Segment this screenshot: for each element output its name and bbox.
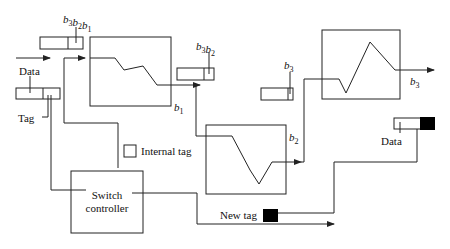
- label-output-data: Data: [381, 135, 402, 147]
- label-controller: controller: [86, 202, 129, 214]
- block-2: [206, 125, 286, 194]
- label-b2: b2: [289, 131, 299, 146]
- block-3: [322, 30, 400, 99]
- register-b3: [261, 72, 293, 100]
- register-data-tag: [16, 76, 86, 190]
- new-tag-square: [263, 209, 278, 222]
- label-b3-output: b3: [410, 75, 420, 90]
- label-input-data: Data: [19, 65, 40, 77]
- pipeline-diagram: b3b2b1 Data Tag b1 b3b2 b3 b2 b3 Interna…: [0, 0, 450, 249]
- label-b3b2b1: b3b2b1: [63, 13, 92, 34]
- block-1-waveform: [90, 58, 200, 85]
- label-b1: b1: [174, 101, 184, 116]
- label-tag: Tag: [18, 112, 35, 124]
- register-b3b2: [177, 52, 214, 80]
- label-switch: Switch: [92, 189, 123, 201]
- label-b3-register: b3: [284, 59, 294, 74]
- register-output-data: [273, 118, 422, 213]
- block-1: [90, 37, 171, 106]
- connector-2-3: [304, 42, 434, 162]
- label-b3b2: b3b2: [196, 40, 215, 58]
- tag-block-output: [420, 117, 435, 130]
- feedback-line-1: [64, 58, 118, 168]
- label-internal-tag: Internal tag: [141, 145, 192, 157]
- label-new-tag: New tag: [220, 209, 257, 221]
- internal-tag-square: [124, 145, 136, 157]
- register-b3b2b1: [40, 27, 83, 49]
